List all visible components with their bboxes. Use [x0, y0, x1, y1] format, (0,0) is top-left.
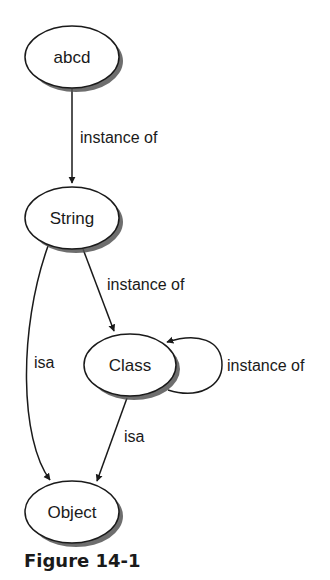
node-label-object: Object: [47, 503, 96, 522]
edge-label-string-class: instance of: [107, 276, 185, 293]
edge-label-abcd-string: instance of: [80, 129, 158, 146]
edge-string-to-object: isa: [26, 246, 54, 480]
edge-class-self-loop: instance of: [167, 338, 305, 393]
node-string: String: [25, 187, 123, 253]
node-object: Object: [25, 481, 123, 547]
node-abcd: abcd: [25, 26, 123, 92]
edge-label-string-object: isa: [34, 354, 55, 371]
node-label-class: Class: [109, 356, 152, 375]
node-label-abcd: abcd: [54, 48, 91, 67]
edge-label-class-self: instance of: [227, 357, 305, 374]
edge-class-to-object: isa: [97, 398, 145, 481]
edge-string-to-class: instance of: [83, 249, 185, 331]
node-class: Class: [84, 334, 180, 400]
figure-caption: Figure 14-1: [24, 550, 141, 571]
node-label-string: String: [50, 209, 94, 228]
edge-label-class-object: isa: [124, 428, 145, 445]
class-hierarchy-diagram: instance of instance of isa instance of …: [0, 0, 330, 580]
edge-abcd-to-string: instance of: [72, 89, 158, 183]
